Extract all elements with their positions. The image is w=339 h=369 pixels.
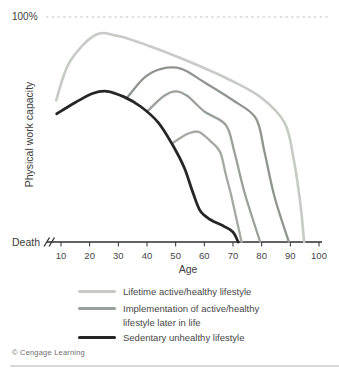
- x-tick-label: 80: [249, 250, 275, 261]
- legend-item-lifetime-active: Lifetime active/healthy lifestyle: [78, 286, 251, 297]
- x-tick-label: 60: [191, 250, 217, 261]
- legend-label: Lifetime active/healthy lifestyle: [123, 286, 251, 297]
- x-tick-label: 40: [134, 250, 160, 261]
- x-tick-label: 10: [48, 250, 74, 261]
- legend-swatch-sedentary: [78, 336, 116, 340]
- legend-label: Sedentary unhealthy lifestyle: [123, 332, 244, 343]
- legend-swatch-lifetime-active: [78, 290, 116, 293]
- legend-label-implementation-line2: lifestyle later in life: [123, 317, 201, 328]
- copyright-credit: © Cengage Learning: [12, 348, 85, 357]
- x-axis-title: Age: [158, 263, 218, 275]
- x-axis-ticks: [61, 242, 319, 247]
- bottom-divider: [10, 365, 339, 367]
- curve-implement-age40: [147, 91, 260, 242]
- curve-implement-age49: [173, 131, 242, 242]
- x-tick-label: 90: [277, 250, 303, 261]
- y-axis-title: Physical work capacity: [23, 69, 36, 201]
- legend-swatch-implementation: [78, 307, 116, 310]
- curves-group: [56, 33, 304, 242]
- legend-label: Implementation of active/healthy: [123, 303, 259, 314]
- x-tick-label: 30: [105, 250, 131, 261]
- y-axis-min-label: Death: [12, 236, 40, 248]
- x-tick-label: 50: [163, 250, 189, 261]
- x-tick-label: 100: [306, 250, 332, 261]
- legend-item-implementation: Implementation of active/healthy: [78, 303, 259, 314]
- legend-item-sedentary: Sedentary unhealthy lifestyle: [78, 332, 244, 343]
- curve-implement-age33: [127, 67, 289, 242]
- x-tick-label: 20: [77, 250, 103, 261]
- x-tick-label: 70: [220, 250, 246, 261]
- y-axis-max-label: 100%: [12, 11, 38, 22]
- curve-sedentary: [57, 91, 239, 242]
- chart-figure: 100% Physical work capacity Death 102030…: [0, 0, 339, 369]
